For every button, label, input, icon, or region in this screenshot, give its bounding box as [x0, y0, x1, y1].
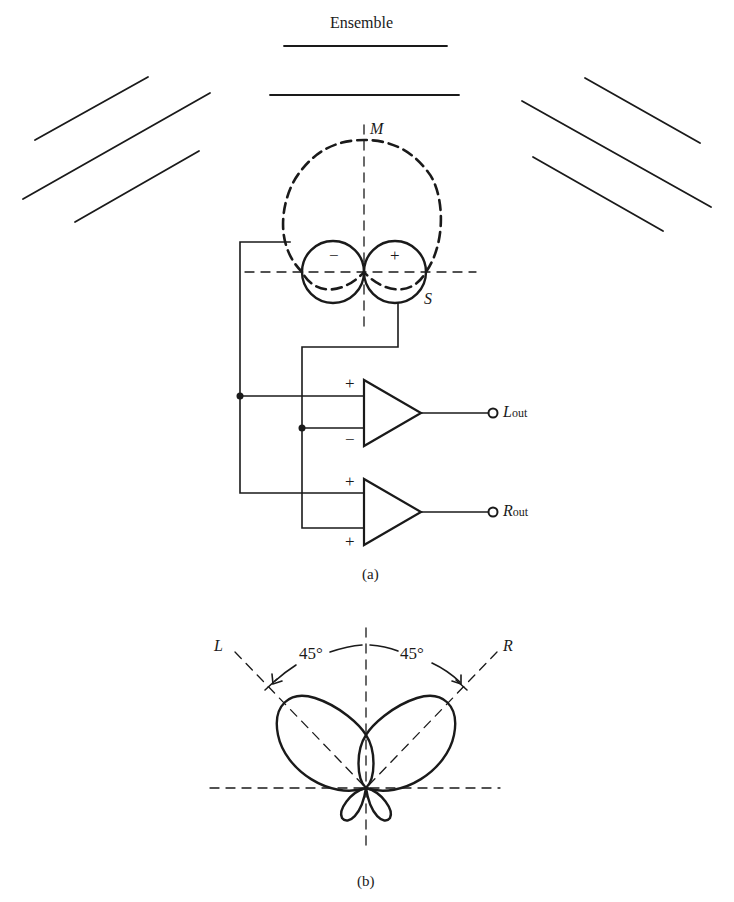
amp-r-plus-sign-lower: +	[345, 532, 355, 552]
mid-cardioid-pattern	[283, 140, 441, 289]
rear-left-lobe	[341, 788, 366, 821]
amp-l-minus-sign: −	[345, 430, 355, 450]
right-angle-arc-top	[370, 645, 398, 651]
r-out-subscript: out	[513, 505, 528, 519]
terminal-l-out	[489, 409, 498, 418]
ensemble-left-row-2	[23, 93, 210, 199]
right-angle-arc-bottom	[432, 663, 460, 682]
junction-dot-mid	[237, 393, 244, 400]
ensemble-right-row-3	[533, 157, 663, 231]
left-angle-arc-top	[330, 645, 362, 652]
ensemble-right-row-2	[522, 101, 711, 207]
b-left-angle-label: 45°	[299, 644, 323, 664]
rear-right-lobe	[366, 788, 391, 821]
left-axis-tick	[265, 679, 277, 690]
ensemble-rows	[23, 46, 711, 231]
r-out-label: Rout	[503, 502, 528, 520]
amp-l-plus-sign: +	[345, 374, 355, 394]
b-right-axis-label: R	[503, 637, 513, 655]
side-pattern-label: S	[424, 290, 432, 308]
l-out-label: Lout	[503, 403, 527, 421]
ensemble-title: Ensemble	[330, 14, 393, 32]
l-out-subscript: out	[512, 406, 527, 420]
junction-dot-side	[299, 425, 306, 432]
panel-b-axes	[210, 628, 500, 852]
sum-amplifier-r	[364, 479, 421, 545]
mid-pattern-label: M	[370, 120, 383, 138]
panel-b-caption: (b)	[357, 873, 375, 890]
figure8-negative-sign: −	[329, 246, 339, 266]
ensemble-left-row-3	[75, 151, 199, 222]
figure8-positive-sign: +	[390, 246, 400, 266]
terminal-r-out	[489, 508, 498, 517]
r-out-main: R	[503, 502, 513, 519]
difference-amplifier-l	[364, 380, 421, 446]
b-right-45-axis	[366, 652, 497, 788]
ensemble-right-row-1	[585, 78, 700, 143]
ensemble-left-row-1	[35, 77, 148, 140]
b-left-axis-label: L	[214, 637, 223, 655]
l-out-main: L	[503, 403, 512, 420]
panel-a-axes	[245, 125, 476, 330]
amp-r-plus-sign-upper: +	[345, 472, 355, 492]
b-left-45-axis	[235, 652, 366, 788]
b-right-angle-label: 45°	[400, 644, 424, 664]
left-angle-arc-bottom	[275, 665, 296, 681]
wire-side-signal	[302, 303, 398, 528]
diagram-canvas	[0, 0, 734, 902]
panel-a-caption: (a)	[362, 566, 379, 583]
